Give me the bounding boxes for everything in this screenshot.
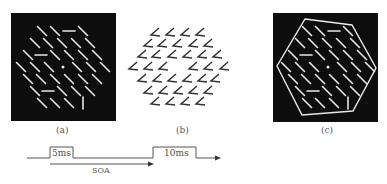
figure: (a) (b) (c) 5ms 10ms SOA (0, 0, 387, 184)
l-shape-mask (204, 39, 213, 47)
l-shape-mask (220, 62, 229, 70)
caption-a: (a) (56, 125, 68, 135)
panel-b-mask (129, 28, 229, 105)
l-shape-mask (213, 50, 222, 58)
l-shape-mask (144, 62, 153, 70)
pulse1-duration-label: 5ms (52, 148, 71, 158)
l-shape-mask (211, 74, 220, 82)
l-shape-mask (174, 86, 183, 94)
soa-arrowhead (148, 162, 154, 167)
l-shape-mask (198, 74, 207, 82)
l-shape-mask (144, 39, 153, 47)
timing-end-arrowhead (215, 156, 221, 161)
l-shape-mask (152, 50, 161, 58)
l-shape-mask (198, 50, 207, 58)
l-shape-mask (166, 97, 175, 105)
l-shape-mask (153, 74, 162, 82)
pulse2-duration-label: 10ms (164, 148, 189, 158)
l-shape-mask (138, 74, 147, 82)
l-shape-mask (189, 62, 198, 70)
caption-c: (c) (321, 125, 333, 135)
l-shape-mask (151, 28, 160, 36)
l-shape-mask (168, 74, 177, 82)
l-shape-mask (204, 62, 213, 70)
l-shape-mask (138, 50, 147, 58)
caption-b: (b) (176, 125, 189, 135)
l-shape-mask (144, 86, 153, 94)
l-shape-mask (204, 86, 213, 94)
l-shape-mask (168, 50, 177, 58)
fixation-dot (327, 66, 330, 69)
l-shape-mask (173, 39, 182, 47)
panel-c-background (273, 13, 378, 122)
l-shape-mask (151, 97, 160, 105)
l-shape-mask (181, 28, 190, 36)
panel-c-stimulus-with-hexagon (273, 13, 378, 122)
l-shape-mask (158, 39, 167, 47)
l-shape-mask (159, 86, 168, 94)
l-shape-mask (129, 62, 138, 70)
l-shape-mask (196, 97, 205, 105)
l-shape-mask (196, 28, 205, 36)
soa-label: SOA (92, 166, 110, 175)
fixation-dot (62, 66, 65, 69)
l-shape-mask (183, 50, 192, 58)
l-shape-mask (189, 86, 198, 94)
panel-a-stimulus (11, 13, 116, 121)
l-shape-mask (189, 39, 198, 47)
l-shape-mask (183, 74, 192, 82)
l-shape-mask (166, 28, 175, 36)
l-shape-mask (181, 97, 190, 105)
l-shape-mask (159, 62, 168, 70)
